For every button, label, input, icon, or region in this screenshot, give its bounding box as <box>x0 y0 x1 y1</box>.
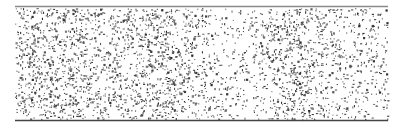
plot-area <box>0 0 401 128</box>
dot-cloud <box>15 8 389 121</box>
dot-raster-chart <box>0 0 401 128</box>
